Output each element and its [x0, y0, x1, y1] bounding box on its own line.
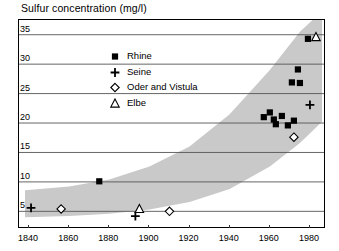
x-tick-label-1880: 1880 — [92, 233, 124, 243]
data-point-filled-square — [273, 121, 279, 127]
data-point-filled-square — [261, 114, 267, 120]
data-point-open-triangle — [111, 99, 119, 107]
legend-marker-filled-square-icon — [108, 49, 122, 62]
legend-marker-open-diamond-icon — [108, 80, 122, 93]
legend-label: Rhine — [127, 51, 152, 61]
x-tick-mark-1900 — [148, 225, 149, 228]
x-tick-mark-1840 — [28, 225, 29, 228]
x-tick-label-1860: 1860 — [52, 233, 84, 243]
legend-label: Elbe — [127, 98, 146, 108]
data-point-open-diamond — [165, 207, 173, 215]
y-tick-label-30: 30 — [20, 53, 30, 63]
data-point-filled-square — [267, 109, 273, 115]
legend-item-rhine: Rhine — [108, 48, 238, 64]
x-tick-label-1920: 1920 — [173, 233, 205, 243]
x-tick-label-1900: 1900 — [132, 233, 164, 243]
data-point-open-diamond — [111, 84, 119, 92]
x-tick-label-1840: 1840 — [12, 233, 44, 243]
x-tick-mark-1860 — [68, 225, 69, 228]
x-tick-label-1960: 1960 — [253, 233, 285, 243]
data-point-filled-square — [295, 66, 301, 72]
y-tick-label-35: 35 — [20, 24, 30, 34]
y-tick-label-25: 25 — [20, 83, 30, 93]
y-tick-label-20: 20 — [20, 112, 30, 122]
data-point-filled-square — [291, 118, 297, 124]
sulfur-concentration-chart: Sulfur concentration (mg/l) 510152025303… — [0, 0, 339, 251]
x-tick-mark-1980 — [309, 225, 310, 228]
legend-item-seine: Seine — [108, 64, 238, 80]
data-point-filled-square — [96, 178, 102, 184]
data-point-plus — [111, 68, 120, 77]
x-tick-mark-1960 — [269, 225, 270, 228]
legend-label: Oder and Vistula — [127, 82, 198, 92]
x-tick-mark-1880 — [108, 225, 109, 228]
data-point-filled-square — [112, 54, 118, 60]
x-tick-mark-1920 — [189, 225, 190, 228]
data-point-filled-square — [289, 79, 295, 85]
x-tick-label-1980: 1980 — [293, 233, 325, 243]
chart-legend: RhineSeineOder and VistulaElbe — [108, 48, 238, 110]
x-tick-label-1940: 1940 — [213, 233, 245, 243]
legend-item-oder-and-vistula: Oder and Vistula — [108, 79, 238, 95]
x-tick-mark-1940 — [229, 225, 230, 228]
legend-marker-open-triangle-icon — [108, 96, 122, 109]
legend-item-elbe: Elbe — [108, 95, 238, 111]
chart-title: Sulfur concentration (mg/l) — [21, 2, 147, 14]
data-point-filled-square — [285, 122, 291, 128]
y-tick-label-10: 10 — [20, 171, 30, 181]
data-point-filled-square — [297, 80, 303, 86]
data-point-filled-square — [279, 113, 285, 119]
legend-label: Seine — [127, 67, 151, 77]
legend-marker-plus-icon — [108, 65, 122, 78]
data-point-filled-square — [305, 36, 311, 42]
y-tick-label-15: 15 — [20, 141, 30, 151]
y-tick-label-5: 5 — [20, 200, 25, 210]
